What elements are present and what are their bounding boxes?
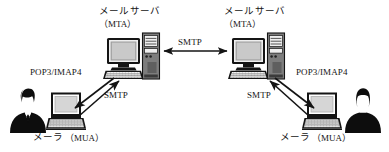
right-server-title: メールサーバ: [224, 6, 285, 17]
email-architecture-diagram: メールサーバ （MTA） メールサーバ （MTA） SMTP POP3/IMAP…: [0, 0, 389, 152]
right-mua-subtitle: （MUA）: [312, 133, 351, 144]
edge-right-mua-to-mta: [270, 81, 309, 116]
left-server-subtitle: （MTA）: [99, 19, 136, 30]
edge-label-right-smtp: SMTP: [247, 90, 271, 101]
left-mua-subtitle: （MUA）: [65, 133, 104, 144]
edge-label-left-smtp: SMTP: [104, 90, 128, 101]
desktop-server-icon-right: [228, 33, 285, 79]
desktop-server-icon-left: [103, 33, 160, 79]
left-mua-title: メーラ: [33, 132, 64, 143]
laptop-icon-right: [302, 93, 342, 131]
edge-label-center-smtp: SMTP: [178, 37, 202, 48]
laptop-icon-left: [46, 93, 86, 131]
edge-label-right-pop3-imap4: POP3/IMAP4: [296, 67, 348, 78]
left-server-title: メールサーバ: [99, 6, 160, 17]
right-server-subtitle: （MTA）: [224, 19, 261, 30]
edge-label-left-pop3-imap4: POP3/IMAP4: [30, 67, 82, 78]
person-male-silhouette-icon: [10, 89, 46, 133]
person-female-silhouette-icon: [345, 88, 381, 133]
right-mua-title: メーラ: [280, 132, 311, 143]
